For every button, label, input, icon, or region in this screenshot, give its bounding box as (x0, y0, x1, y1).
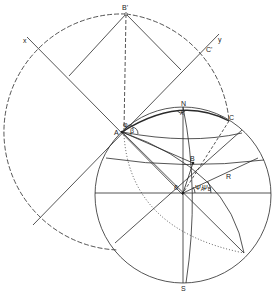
x-axis-line (27, 37, 183, 195)
diagonal-lower-left (115, 130, 242, 243)
label-lambda: λ (180, 109, 184, 116)
label-N: N (181, 100, 186, 107)
point-center (182, 192, 185, 195)
y-axis-line (33, 34, 219, 225)
label-S: S (181, 285, 186, 291)
line-A-B (122, 132, 193, 163)
label-B: B (190, 155, 195, 162)
label-delta: δ (174, 184, 178, 191)
point-A (121, 131, 124, 134)
label-y-axis: y (218, 36, 222, 44)
line-bprime-A-dashed (124, 14, 126, 130)
meridian-top-arc (122, 110, 229, 132)
label-beta: β (130, 127, 134, 135)
point-Bprime (125, 13, 128, 16)
label-C-prime: C' (206, 46, 212, 53)
label-phi: φ (123, 121, 128, 129)
label-R: R (226, 173, 231, 180)
label-B-prime: B' (122, 4, 128, 11)
label-x-axis: x (23, 37, 27, 44)
sphere-diagram: B' x y C' N λ A φ β C B R δ ΨA ΨB S (0, 0, 274, 291)
meridian-through-B (183, 107, 192, 283)
line-bprime-cprime (126, 14, 181, 70)
label-C: C (229, 114, 234, 121)
label-psi-B: ΨB (202, 184, 212, 192)
point-B (192, 162, 195, 165)
label-A: A (114, 129, 119, 136)
construction-arc (4, 14, 126, 250)
line-bprime-mid (69, 14, 126, 76)
parallel-upper (122, 132, 242, 139)
